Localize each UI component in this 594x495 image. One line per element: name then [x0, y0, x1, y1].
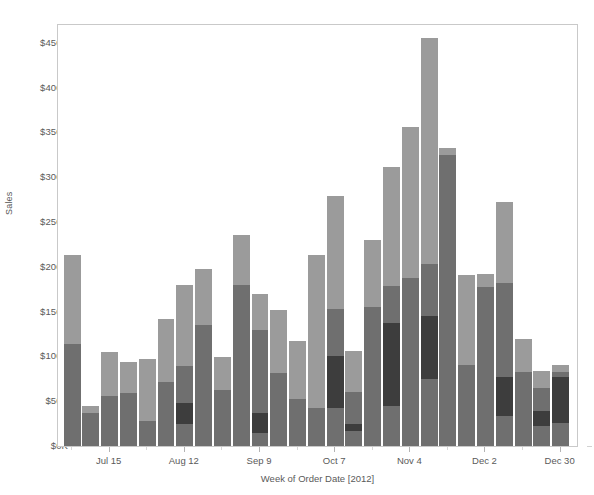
bar-segment[interactable] [101, 352, 118, 396]
bar-segment[interactable] [289, 341, 306, 399]
bar-segment[interactable] [496, 377, 513, 416]
bar-segment[interactable] [308, 408, 325, 430]
bar-segment[interactable] [233, 235, 250, 285]
bar-segment[interactable] [176, 424, 193, 446]
bar-segment[interactable] [533, 371, 550, 388]
bar-segment[interactable] [195, 435, 212, 446]
bar-segment[interactable] [101, 396, 118, 424]
bar-segment[interactable] [533, 411, 550, 426]
bar-segment[interactable] [327, 309, 344, 356]
bar-segment[interactable] [176, 366, 193, 403]
bar-segment[interactable] [252, 330, 269, 413]
bar-segment[interactable] [82, 406, 99, 413]
bar-segment[interactable] [496, 283, 513, 377]
bar-segment[interactable] [158, 319, 175, 382]
bar-segment[interactable] [496, 202, 513, 283]
bar[interactable] [308, 255, 325, 446]
bar[interactable] [364, 240, 381, 446]
bar-segment[interactable] [383, 406, 400, 446]
bar-segment[interactable] [552, 365, 569, 372]
bar-segment[interactable] [552, 423, 569, 446]
bar[interactable] [176, 285, 193, 446]
bar-segment[interactable] [327, 196, 344, 309]
bar[interactable] [195, 269, 212, 446]
bar[interactable] [421, 38, 438, 446]
bar[interactable] [458, 275, 475, 446]
bar-segment[interactable] [477, 274, 494, 287]
bar[interactable] [139, 359, 156, 446]
bar-segment[interactable] [120, 362, 137, 393]
bar[interactable] [383, 167, 400, 446]
bar[interactable] [252, 294, 269, 446]
bar[interactable] [496, 202, 513, 446]
bar[interactable] [158, 319, 175, 446]
bar[interactable] [82, 406, 99, 446]
bar-segment[interactable] [477, 410, 494, 446]
bar-segment[interactable] [345, 351, 362, 392]
bar-segment[interactable] [308, 431, 325, 446]
bar[interactable] [515, 339, 532, 446]
bar-segment[interactable] [345, 424, 362, 431]
bar-segment[interactable] [439, 148, 456, 155]
bar[interactable] [552, 365, 569, 447]
bar-segment[interactable] [233, 431, 250, 446]
bar-segment[interactable] [270, 419, 287, 446]
bar-segment[interactable] [383, 286, 400, 324]
bar[interactable] [477, 274, 494, 446]
bar-segment[interactable] [515, 339, 532, 372]
bar-segment[interactable] [402, 278, 419, 411]
bar-segment[interactable] [421, 316, 438, 379]
bar-segment[interactable] [252, 294, 269, 330]
bar-segment[interactable] [214, 357, 231, 389]
bar-segment[interactable] [82, 413, 99, 439]
bar-segment[interactable] [345, 431, 362, 446]
bar-segment[interactable] [477, 287, 494, 411]
bar-segment[interactable] [458, 404, 475, 446]
bar-segment[interactable] [439, 428, 456, 446]
bar-segment[interactable] [421, 379, 438, 446]
bar-segment[interactable] [214, 390, 231, 429]
bar[interactable] [345, 351, 362, 446]
bar-segment[interactable] [195, 269, 212, 325]
bar-segment[interactable] [120, 432, 137, 446]
bar-segment[interactable] [64, 344, 81, 421]
bar-segment[interactable] [252, 413, 269, 433]
bar-segment[interactable] [383, 167, 400, 286]
bar[interactable] [270, 310, 287, 446]
bar-segment[interactable] [233, 285, 250, 431]
bar-segment[interactable] [552, 377, 569, 423]
bar-segment[interactable] [327, 356, 344, 408]
bar-segment[interactable] [402, 410, 419, 446]
bar-segment[interactable] [458, 365, 475, 404]
bar-segment[interactable] [176, 285, 193, 367]
bar-segment[interactable] [533, 426, 550, 446]
bar-segment[interactable] [308, 255, 325, 408]
bar[interactable] [120, 362, 137, 446]
bar-segment[interactable] [158, 428, 175, 446]
bar-segment[interactable] [345, 392, 362, 423]
bar-segment[interactable] [101, 424, 118, 446]
bar[interactable] [214, 357, 231, 446]
bar-segment[interactable] [421, 38, 438, 264]
bar-segment[interactable] [496, 416, 513, 446]
bar-segment[interactable] [533, 388, 550, 411]
bar-segment[interactable] [364, 240, 381, 307]
bar-segment[interactable] [327, 408, 344, 446]
bar-segment[interactable] [383, 323, 400, 405]
bar-segment[interactable] [195, 325, 212, 435]
bar-segment[interactable] [252, 433, 269, 446]
bar-segment[interactable] [82, 439, 99, 446]
bar-segment[interactable] [120, 393, 137, 432]
bar-segment[interactable] [64, 421, 81, 446]
bar-segment[interactable] [458, 275, 475, 365]
bar-segment[interactable] [364, 307, 381, 423]
bar[interactable] [101, 352, 118, 446]
bar-segment[interactable] [270, 310, 287, 373]
bar-segment[interactable] [139, 430, 156, 446]
bar[interactable] [327, 196, 344, 446]
bar[interactable] [402, 127, 419, 446]
bar-segment[interactable] [289, 399, 306, 433]
bar-segment[interactable] [289, 433, 306, 446]
bar-segment[interactable] [139, 359, 156, 421]
bar[interactable] [233, 235, 250, 446]
